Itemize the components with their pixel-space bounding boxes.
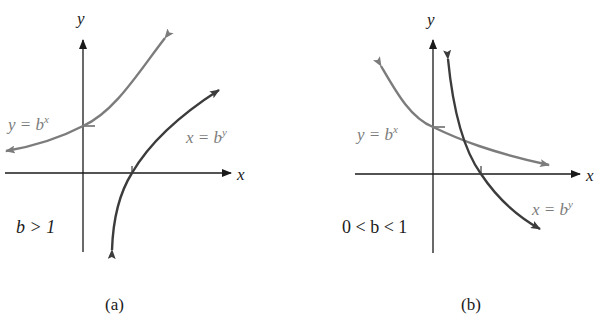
equation-base: x = b [186, 128, 222, 147]
panel-a-exponential-equation: y = bx [8, 114, 49, 133]
panel-a-y-axis-label: y [77, 10, 85, 27]
figure-canvas [0, 0, 603, 330]
panel-b-condition: 0 < b < 1 [342, 218, 407, 236]
equation-exponent: x [393, 123, 398, 135]
panel-b-y-axis-label: y [427, 11, 435, 28]
panel-a-x-axis-label: x [237, 166, 245, 183]
panel-a-caption: (a) [105, 296, 124, 313]
panel-b-x-axis-label: x [586, 167, 594, 184]
panel-b-exponential-equation: y = bx [357, 124, 398, 143]
equation-exponent: y [568, 198, 573, 210]
equation-exponent: x [44, 113, 49, 125]
panel-b-exponential-curve [381, 66, 549, 165]
panel-b-logarithmic-equation: x = by [532, 199, 573, 218]
equation-base: x = b [532, 200, 568, 219]
equation-base: y = b [357, 125, 393, 144]
panel-a-logarithmic-curve [112, 90, 219, 250]
panel-a-exponential-curve [6, 38, 165, 151]
panel-a-condition: b > 1 [16, 218, 55, 236]
panel-a-logarithmic-equation: x = by [186, 127, 227, 146]
panel-b-logarithmic-curve [448, 59, 540, 229]
panel-b-caption: (b) [461, 296, 481, 313]
equation-base: y = b [8, 115, 44, 134]
equation-exponent: y [222, 126, 227, 138]
